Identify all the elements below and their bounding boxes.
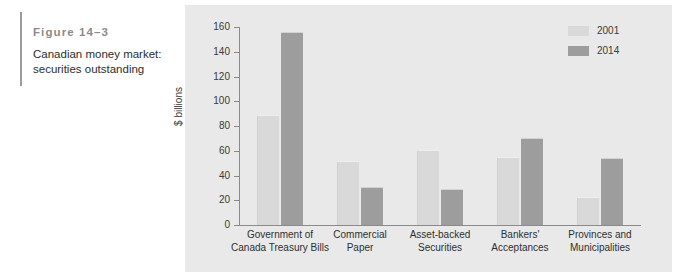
caption-block: Figure 14–3 Canadian money market: secur… [0, 0, 185, 276]
legend-item: 2014 [568, 43, 658, 58]
x-axis-label-line: Municipalities [548, 242, 652, 255]
y-axis-tick-label: 100 [185, 95, 230, 106]
bar-2001 [497, 157, 519, 225]
y-axis-tick-label: 40 [185, 170, 230, 181]
y-axis-tick-label: 80 [185, 120, 230, 131]
figure-number: Figure 14–3 [33, 26, 109, 38]
bar-2014 [521, 138, 543, 225]
bar-2001 [417, 150, 439, 225]
chart-legend: 20012014 [568, 23, 658, 63]
bar-2001 [257, 115, 279, 225]
bar-2014 [441, 189, 463, 225]
bar-group [497, 27, 543, 225]
chart-panel: $ billions 020406080100120140160 2001201… [185, 5, 672, 272]
bar-2014 [281, 32, 303, 225]
bar-2014 [601, 158, 623, 225]
x-axis-line [239, 225, 641, 226]
legend-swatch [568, 26, 589, 36]
y-axis-title: $ billions [173, 87, 184, 126]
bar-group [337, 27, 383, 225]
y-axis-tick-label: 140 [185, 46, 230, 57]
legend-item: 2001 [568, 23, 658, 38]
x-axis-label: Provinces andMunicipalities [548, 229, 652, 254]
y-axis-tick-label: 60 [185, 145, 230, 156]
legend-swatch [568, 46, 589, 56]
bar-2001 [337, 161, 359, 225]
bar-2014 [361, 187, 383, 225]
legend-label: 2014 [597, 45, 619, 56]
bar-group [257, 27, 303, 225]
x-axis-label-line: Provinces and [548, 229, 652, 242]
bar-2001 [577, 197, 599, 225]
legend-label: 2001 [597, 25, 619, 36]
y-axis-tick-label: 120 [185, 71, 230, 82]
figure-title: Canadian money market: securities outsta… [33, 47, 173, 77]
y-axis-tick-label: 20 [185, 194, 230, 205]
y-axis-tick-label: 0 [185, 219, 230, 230]
figure-root: Figure 14–3 Canadian money market: secur… [0, 0, 690, 276]
y-axis-tick-label: 160 [185, 21, 230, 32]
caption-vertical-rule [20, 12, 22, 86]
bar-group [417, 27, 463, 225]
